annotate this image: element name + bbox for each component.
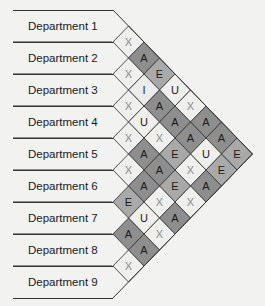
relationship-code: A: [140, 244, 148, 256]
relationship-code: X: [187, 164, 195, 176]
relationship-code: A: [202, 116, 210, 128]
relationship-code: A: [156, 164, 164, 176]
relationship-code: E: [233, 148, 240, 160]
relationship-code: A: [140, 180, 148, 192]
relationship-code: E: [125, 196, 132, 208]
relationship-code: X: [156, 228, 164, 240]
relationship-code: A: [125, 228, 133, 240]
relationship-code: E: [218, 164, 225, 176]
relationship-code: X: [156, 196, 164, 208]
relationship-code: X: [125, 260, 133, 272]
relationship-code: X: [125, 68, 133, 80]
relationship-code: E: [156, 68, 163, 80]
relationship-code: A: [218, 132, 226, 144]
relationship-code: X: [125, 36, 133, 48]
relationship-code: U: [140, 212, 148, 224]
relationship-code: A: [140, 52, 148, 64]
relationship-matrix: XAEUXAAEXIAAAUEXUXEXAXAAEXXAXAEUXAAX: [0, 0, 265, 306]
relationship-code: A: [140, 148, 148, 160]
relationship-code: A: [187, 132, 195, 144]
relationship-code: U: [171, 84, 179, 96]
relationship-code: E: [171, 180, 178, 192]
relationship-code: A: [171, 116, 179, 128]
relationship-code: X: [125, 164, 133, 176]
relationship-code: A: [171, 212, 179, 224]
relationship-code: A: [156, 100, 164, 112]
relationship-code: U: [202, 148, 210, 160]
relationship-code: I: [142, 84, 145, 96]
relationship-code: X: [156, 132, 164, 144]
relationship-code: A: [202, 180, 210, 192]
relationship-code: U: [140, 116, 148, 128]
relationship-code: X: [125, 100, 133, 112]
relationship-code: E: [171, 148, 178, 160]
relationship-code: X: [125, 132, 133, 144]
relationship-code: X: [187, 100, 195, 112]
relationship-code: X: [187, 196, 195, 208]
